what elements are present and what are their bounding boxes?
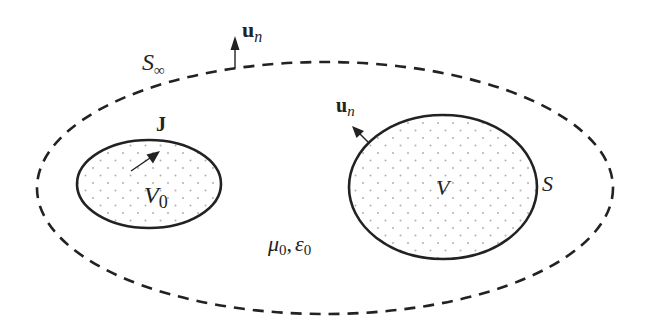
label-un-outer: un [242, 17, 262, 45]
label-medium: μ0,ε0 [267, 231, 311, 258]
label-s-infinity: S∞ [142, 49, 165, 78]
normal-arrow-s-icon [352, 126, 368, 142]
label-s: S [542, 171, 553, 196]
diagram-canvas: S∞ un J V0 un V S μ0,ε0 [0, 0, 646, 327]
label-un-s: un [336, 94, 355, 119]
normal-arrow-outer-icon [231, 36, 240, 68]
label-j: J [156, 113, 166, 135]
